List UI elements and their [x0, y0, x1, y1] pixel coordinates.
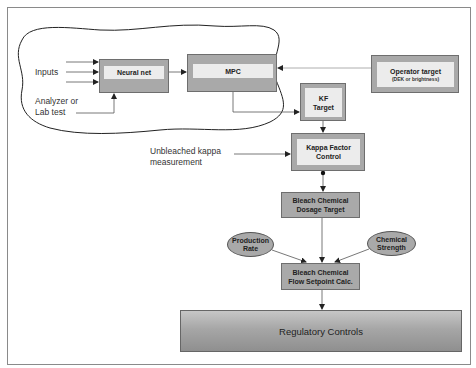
dosage-target-line1: Bleach Chemical — [292, 196, 348, 205]
mpc-node: MPC — [187, 54, 277, 92]
production-rate-line2: Rate — [243, 245, 258, 253]
inputs-text: Inputs — [35, 67, 58, 77]
flow-setpoint-line2: Flow Setpoint Calc. — [288, 277, 353, 286]
production-rate-line1: Production — [232, 237, 269, 245]
unbleached-line1: Unbleached kappa — [150, 146, 221, 157]
mpc-label: MPC — [225, 67, 241, 76]
junction-dot — [321, 171, 325, 175]
regulatory-controls-label: Regulatory Controls — [279, 326, 363, 337]
inputs-label: Inputs — [35, 67, 58, 78]
kf-target-line1: KF — [319, 94, 328, 103]
kappa-factor-control-line2: Control — [316, 152, 341, 161]
dosage-target-node: Bleach Chemical Dosage Target — [281, 192, 360, 218]
operator-target-label: Operator target — [390, 67, 441, 76]
kappa-factor-control-node: Kappa Factor Control — [291, 133, 365, 171]
production-rate-node: Production Rate — [227, 232, 274, 257]
analyzer-label: Analyzer or Lab test — [35, 96, 78, 118]
operator-target-node: Operator target (DEK or brightness) — [371, 55, 459, 93]
neural-net-node: Neural net — [99, 59, 169, 93]
unbleached-line2: measurement — [150, 157, 221, 168]
chemical-strength-node: Chemical Strength — [367, 231, 416, 256]
analyzer-line2: Lab test — [35, 107, 78, 118]
unbleached-kappa-label: Unbleached kappa measurement — [150, 146, 221, 168]
analyzer-line1: Analyzer or — [35, 96, 78, 107]
chemical-strength-line2: Strength — [377, 244, 406, 252]
dosage-target-line2: Dosage Target — [296, 205, 344, 214]
flow-setpoint-line1: Bleach Chemical — [292, 268, 348, 277]
neural-net-label: Neural net — [117, 68, 151, 77]
kf-target-node: KF Target — [300, 83, 346, 121]
flow-setpoint-node: Bleach Chemical Flow Setpoint Calc. — [281, 263, 360, 290]
operator-target-sublabel: (DEK or brightness) — [392, 76, 439, 83]
kappa-factor-control-line1: Kappa Factor — [306, 143, 351, 152]
regulatory-controls-node: Regulatory Controls — [180, 310, 462, 352]
chemical-strength-line1: Chemical — [376, 236, 407, 244]
kf-target-line2: Target — [313, 103, 334, 112]
